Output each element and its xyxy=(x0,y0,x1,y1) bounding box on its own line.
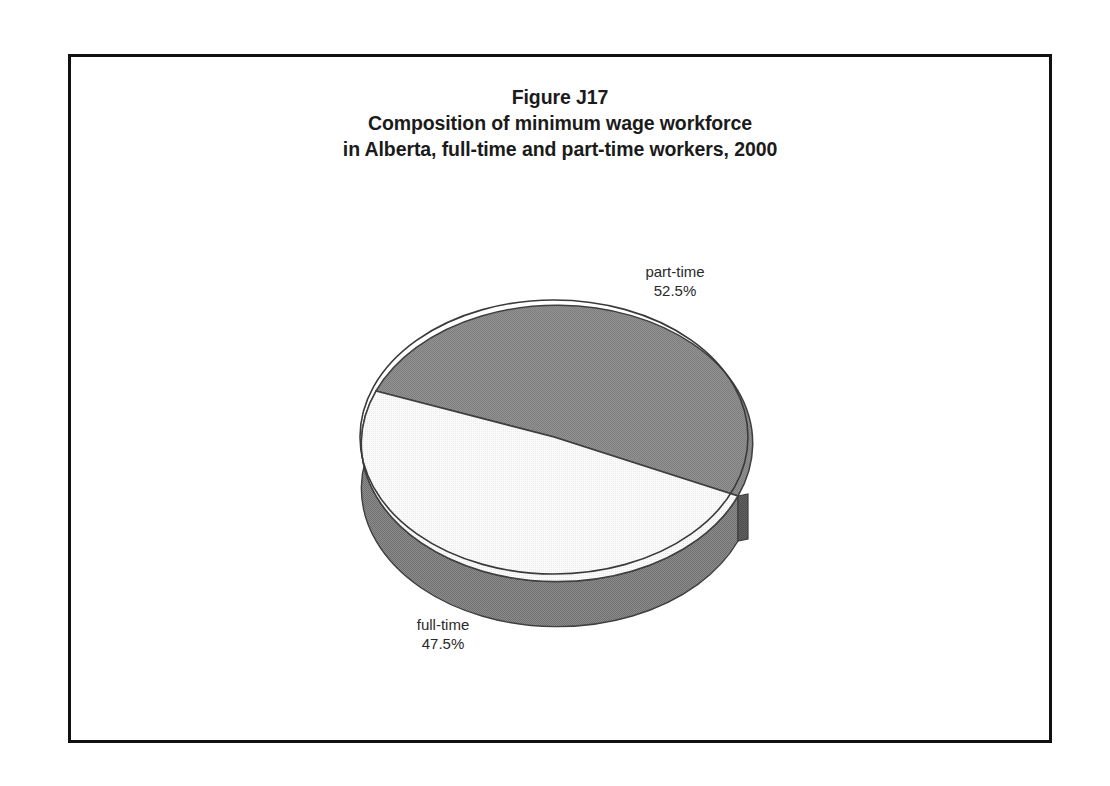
pie-label-full-time-value: 47.5% xyxy=(373,634,513,653)
pie-label-part-time-name: part-time xyxy=(605,262,745,281)
pie-label-part-time: part-time 52.5% xyxy=(605,262,745,300)
pie-chart-3d xyxy=(71,57,1055,746)
pie-side-part-time-cut xyxy=(738,494,748,541)
pie-chart-area: part-time 52.5% full-time 47.5% xyxy=(71,57,1055,746)
figure-canvas: Figure J17 Composition of minimum wage w… xyxy=(0,0,1110,786)
pie-label-full-time-name: full-time xyxy=(373,615,513,634)
figure-border-frame: Figure J17 Composition of minimum wage w… xyxy=(68,54,1052,743)
pie-label-part-time-value: 52.5% xyxy=(605,281,745,300)
pie-label-full-time: full-time 47.5% xyxy=(373,615,513,653)
